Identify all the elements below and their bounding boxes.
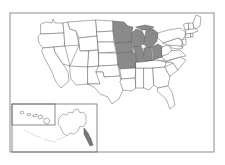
- hawaii-oahu: [27, 113, 31, 116]
- state-ri[interactable]: Rhode Island: [191, 33, 193, 37]
- state-la[interactable]: Louisiana: [120, 78, 136, 91]
- hawaii-hawaii: [44, 118, 50, 124]
- aleutian-islands: [24, 128, 93, 146]
- state-or[interactable]: Oregon: [38, 33, 65, 48]
- state-az[interactable]: Arizona: [70, 66, 88, 85]
- state-ia[interactable]: Iowa: [115, 42, 133, 53]
- aleutian-chain-3: [57, 136, 66, 140]
- state-mn[interactable]: Minnesota: [113, 21, 133, 43]
- hawaii-islands: [20, 111, 50, 124]
- alaska-panhandle: [84, 128, 93, 146]
- state-wa[interactable]: Washington: [41, 19, 64, 34]
- us-choropleth-map: WashingtonOregonCaliforniaNevadaIdahoMon…: [0, 0, 225, 165]
- state-mi2[interactable]: Michigan Upper Peninsula: [136, 25, 154, 30]
- state-fl[interactable]: Florida: [158, 86, 175, 109]
- state-ks[interactable]: Kansas: [99, 53, 118, 66]
- state-wi[interactable]: Wisconsin: [131, 29, 145, 47]
- state-vt[interactable]: Vermont: [184, 23, 189, 30]
- state-ne[interactable]: Nebraska: [98, 42, 116, 53]
- hawaii-kauai: [20, 111, 24, 114]
- state-wy[interactable]: Wyoming: [79, 36, 98, 51]
- hawaii-molokai: [33, 114, 37, 117]
- state-ar[interactable]: Arkansas: [120, 68, 136, 79]
- alaska-hawaii-inset: [12, 104, 97, 152]
- states-layer: WashingtonOregonCaliforniaNevadaIdahoMon…: [38, 15, 201, 109]
- state-al[interactable]: Alabama: [144, 68, 154, 90]
- alaska-shape: [58, 109, 86, 136]
- state-co[interactable]: Colorado: [88, 50, 99, 67]
- hawaii-maui: [38, 115, 43, 119]
- state-mo[interactable]: Missouri: [117, 52, 137, 69]
- aleutian-chain-2: [44, 139, 56, 142]
- state-nd[interactable]: North Dakota: [96, 20, 113, 32]
- state-ms[interactable]: Mississippi: [136, 68, 144, 88]
- map-canvas: WashingtonOregonCaliforniaNevadaIdahoMon…: [0, 0, 225, 165]
- state-sd[interactable]: South Dakota: [97, 31, 114, 42]
- state-me[interactable]: Maine: [193, 15, 201, 29]
- aleutian-chain-1: [24, 130, 42, 138]
- state-in[interactable]: Indiana: [143, 47, 152, 62]
